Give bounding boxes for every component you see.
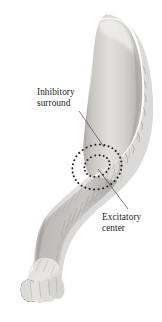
label-excitatory-line1: Excitatory [102,212,141,222]
label-excitatory-center: Excitatory center [102,212,141,233]
figure-receptive-field: Inhibitory surround Excitatory center [0,0,162,322]
limb-illustration [0,0,162,322]
label-inhibitory-surround: Inhibitory surround [37,87,75,108]
label-inhibitory-line2: surround [37,98,75,109]
label-excitatory-line2: center [102,223,141,234]
paw [21,258,65,303]
label-inhibitory-line1: Inhibitory [37,87,75,97]
